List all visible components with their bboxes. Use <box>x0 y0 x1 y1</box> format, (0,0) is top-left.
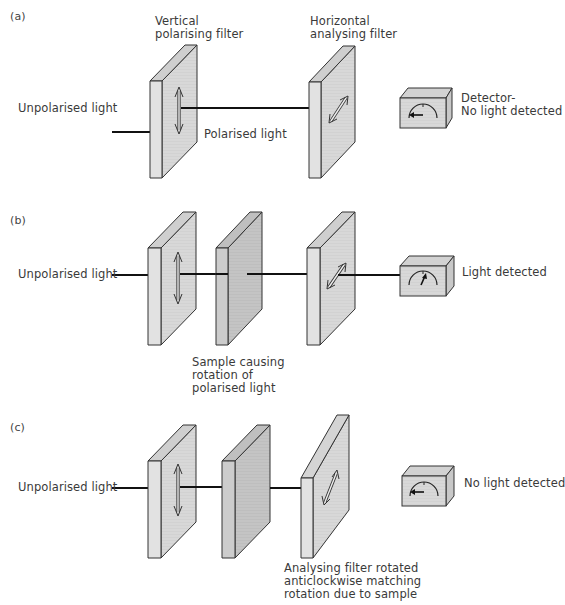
panel-label-a: (a) <box>10 10 26 23</box>
sample-label: Sample causing rotation of polarised lig… <box>192 356 285 395</box>
horizontal-analysing-filter <box>307 212 355 345</box>
vertical-polarising-filter <box>148 425 196 558</box>
panel-c <box>112 415 454 558</box>
polarised-light-label: Polarised light <box>204 128 287 141</box>
detector-a <box>400 88 452 128</box>
source-label: Unpolarised light <box>18 268 117 281</box>
sample-cell <box>216 212 262 345</box>
vertical-polarising-filter <box>150 45 197 178</box>
analyser-label: Horizontal analysing filter <box>310 15 397 41</box>
detector-label: Light detected <box>462 266 547 279</box>
detector-label: No light detected <box>464 477 565 490</box>
panel-label-c: (c) <box>10 421 25 434</box>
rotated-analyser-label: Analysing filter rotated anticlockwise m… <box>284 562 421 601</box>
horizontal-analysing-filter <box>309 46 355 178</box>
panel-a <box>112 45 452 178</box>
vertical-polarising-filter <box>148 212 196 345</box>
rotated-analysing-filter <box>301 415 349 558</box>
sample-cell <box>222 425 270 558</box>
detector-b <box>400 256 454 296</box>
detector-c <box>402 466 454 506</box>
panel-label-b: (b) <box>10 214 26 227</box>
source-label: Unpolarised light <box>18 481 117 494</box>
detector-label: Detector- No light detected <box>461 92 562 118</box>
panel-b <box>112 212 454 345</box>
polariser-label: Vertical polarising filter <box>155 15 243 41</box>
source-label: Unpolarised light <box>18 102 117 115</box>
